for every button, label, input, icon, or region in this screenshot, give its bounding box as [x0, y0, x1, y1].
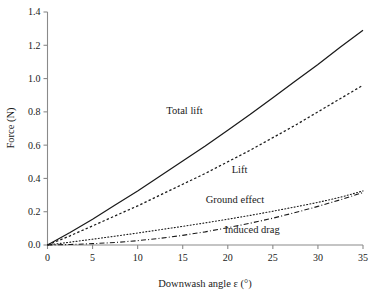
y-tick-label: 0.6	[28, 140, 41, 151]
x-tick-label: 0	[45, 252, 50, 263]
x-tick-label: 25	[268, 252, 278, 263]
x-tick-label: 30	[313, 252, 323, 263]
x-axis-title: Downwash angle ε (°)	[158, 278, 252, 290]
y-tick-label: 1.0	[28, 73, 41, 84]
series-label-lift: Lift	[232, 164, 248, 175]
x-tick-label: 20	[223, 252, 233, 263]
x-tick-label: 10	[133, 252, 143, 263]
y-tick-label: 0.2	[28, 206, 41, 217]
y-tick-label: 0.8	[28, 106, 41, 117]
x-tick-label: 5	[90, 252, 95, 263]
x-tick-label: 35	[358, 252, 368, 263]
chart-figure: 0.00.20.40.60.81.01.21.4 Force (N) 05101…	[0, 0, 386, 294]
y-axis-title: Force (N)	[5, 107, 17, 149]
y-tick-label: 0.0	[28, 239, 41, 250]
series-label-induced-drag: Induced drag	[225, 224, 281, 235]
y-tick-label: 1.4	[28, 6, 41, 17]
y-tick-label: 1.2	[28, 40, 41, 51]
series-label-total-lift: Total lift	[166, 105, 202, 116]
y-tick-label: 0.4	[28, 173, 41, 184]
x-tick-label: 15	[178, 252, 188, 263]
series-label-ground-effect: Ground effect	[206, 194, 264, 205]
force-vs-downwash-angle-chart: 0.00.20.40.60.81.01.21.4 Force (N) 05101…	[0, 0, 386, 294]
chart-background	[0, 0, 386, 294]
